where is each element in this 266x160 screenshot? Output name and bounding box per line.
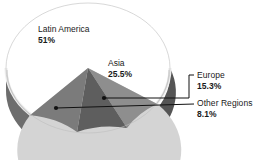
slice-label-asia-name: Asia bbox=[108, 58, 132, 69]
slice-label-latin-america-value: 51% bbox=[38, 35, 90, 46]
slice-label-latin-america-name: Latin America bbox=[38, 24, 90, 35]
callout-label-europe-name: Europe bbox=[197, 70, 225, 81]
callout-label-europe-value: 15.3% bbox=[197, 81, 225, 92]
slice-label-latin-america: Latin America 51% bbox=[38, 24, 90, 46]
slice-label-asia: Asia 25.5% bbox=[108, 58, 132, 80]
callout-label-other-regions: Other Regions 8.1% bbox=[197, 98, 252, 119]
callout-label-europe: Europe 15.3% bbox=[197, 70, 225, 91]
callout-label-other-regions-value: 8.1% bbox=[197, 109, 252, 120]
slice-label-asia-value: 25.5% bbox=[108, 69, 132, 80]
pie-chart: Latin America 51% Asia 25.5% Europe 15.3… bbox=[0, 0, 266, 160]
callout-label-other-regions-name: Other Regions bbox=[197, 98, 252, 109]
pie-top-face bbox=[6, 3, 181, 160]
